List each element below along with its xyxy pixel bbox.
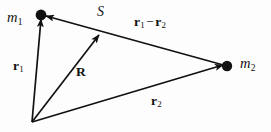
mass1-label: m1 <box>7 10 22 26</box>
vector-r1-subscript: 1 <box>19 64 24 74</box>
vector-difference-subscript-a: 1 <box>140 20 145 30</box>
mass1-point-marker <box>36 10 47 21</box>
vector-r2-label: r2 <box>151 94 162 109</box>
vector-R-line <box>32 35 99 122</box>
point-s-label: S <box>97 5 104 19</box>
mass2-symbol: m <box>240 55 250 71</box>
vector-r2-subscript: 2 <box>157 99 162 109</box>
mass1-subscript: 1 <box>17 16 22 27</box>
mass1-symbol: m <box>7 9 17 25</box>
mass2-subscript: 2 <box>250 62 255 73</box>
vector-diagram-figure: m1 m2 S r1 R r2 r1−r2 <box>0 0 271 132</box>
vector-difference-operator: − <box>145 14 156 29</box>
vector-r2-line <box>32 65 223 122</box>
vector-r1-line <box>32 19 41 122</box>
vector-R-label: R <box>76 65 86 79</box>
vector-difference-label: r1−r2 <box>134 15 166 30</box>
vector-difference-subscript-b: 2 <box>161 20 166 30</box>
mass2-point-marker <box>222 61 232 71</box>
mass2-label: m2 <box>240 56 255 72</box>
vector-r1-label: r1 <box>13 59 24 74</box>
